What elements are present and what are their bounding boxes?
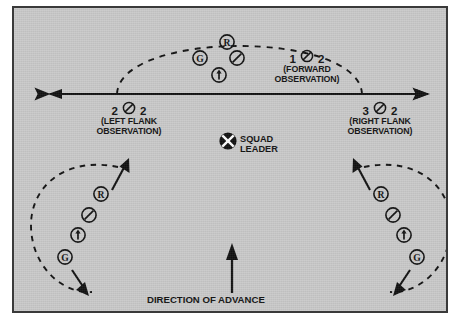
- automatic-rifleman-symbol: [386, 208, 400, 222]
- direction-of-advance-label: DIRECTION OF ADVANCE: [147, 294, 265, 305]
- automatic-rifleman-symbol: [230, 51, 244, 65]
- left-flank-designation: 2 2: [76, 101, 182, 117]
- rifleman-symbol: R: [374, 187, 388, 201]
- forward-observation-designation: 1 2: [261, 49, 353, 65]
- fire-team-slash-icon: [372, 101, 388, 115]
- left-flank-observation-label: 2 2 (LEFT FLANK OBSERVATION): [76, 101, 182, 136]
- rifleman-symbol: R: [220, 35, 234, 49]
- team-leader-symbol: [212, 68, 226, 82]
- right-flank-left-number: 3: [363, 105, 369, 117]
- right-flank-right-number: 2: [391, 105, 397, 117]
- forward-right-number: 2: [318, 53, 324, 65]
- svg-text:G: G: [413, 252, 421, 263]
- left-flank-right-number: 2: [140, 105, 146, 117]
- left-flank-element: RG: [58, 187, 108, 264]
- grenadier-symbol: G: [58, 250, 72, 264]
- fire-team-slash-icon: [299, 49, 315, 63]
- svg-text:R: R: [378, 189, 386, 200]
- right-flank-element: RG: [374, 187, 424, 264]
- squad-leader-line2: LEADER: [240, 144, 278, 154]
- diagram-frame: RGRGRG 1 2 (FORWARD OBSERVATION) 2: [12, 6, 448, 313]
- left-flank-caption-line2: OBSERVATION): [76, 127, 182, 137]
- team-leader-symbol: [71, 228, 85, 242]
- fire-team-slash-icon: [121, 101, 137, 115]
- squad-leader-label: SQUAD LEADER: [240, 134, 278, 155]
- forward-caption-line2: OBSERVATION): [261, 75, 353, 85]
- unit-symbols-layer: RGRGRG: [14, 8, 448, 313]
- team-leader-symbol: [397, 228, 411, 242]
- forward-left-number: 1: [290, 53, 296, 65]
- right-flank-caption-line2: OBSERVATION): [324, 127, 436, 137]
- left-flank-left-number: 2: [112, 105, 118, 117]
- right-flank-designation: 3 2: [324, 101, 436, 117]
- svg-text:G: G: [196, 53, 204, 64]
- right-flank-observation-label: 3 2 (RIGHT FLANK OBSERVATION): [324, 101, 436, 136]
- squad-leader-line1: SQUAD: [240, 134, 273, 144]
- svg-text:G: G: [61, 252, 69, 263]
- forward-observation-label: 1 2 (FORWARD OBSERVATION): [261, 49, 353, 84]
- forward-element: RG: [193, 35, 244, 82]
- automatic-rifleman-symbol: [82, 208, 96, 222]
- diagram-root: RGRGRG 1 2 (FORWARD OBSERVATION) 2: [0, 0, 458, 321]
- grenadier-symbol: G: [193, 51, 207, 65]
- grenadier-symbol: G: [410, 250, 424, 264]
- svg-text:R: R: [224, 37, 232, 48]
- svg-text:R: R: [98, 189, 106, 200]
- rifleman-symbol: R: [94, 187, 108, 201]
